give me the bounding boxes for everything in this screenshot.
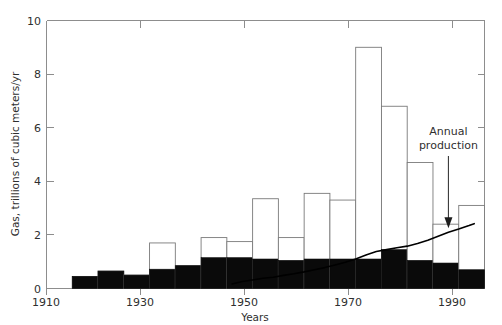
bar-cumulative-1990 [459, 270, 485, 289]
x-ticklabel-1910: 1910 [32, 296, 60, 309]
x-axis-title: Years [240, 311, 269, 323]
bar-cumulative-1930 [150, 269, 176, 288]
chart-figure: 10 8 6 4 2 0 Annual p [0, 0, 502, 325]
bar-cumulative-1915 [72, 276, 98, 288]
y-ticklabel-4: 4 [34, 175, 41, 188]
bar-total-1970 [356, 47, 382, 288]
x-ticklabel-1990: 1990 [438, 296, 466, 309]
bar-cumulative-1935 [175, 266, 201, 289]
bar-cumulative-1970 [356, 259, 382, 288]
bar-cumulative-1960 [304, 259, 330, 288]
bar-cumulative-1980 [407, 260, 433, 288]
bar-cumulative-1950 [253, 259, 279, 288]
y-ticklabel-10: 10 [27, 15, 41, 28]
bar-cumulative-1925 [124, 275, 150, 288]
x-ticklabel-1950: 1950 [230, 296, 258, 309]
bar-cumulative-1920 [98, 271, 124, 288]
gas-production-chart-svg: 10 8 6 4 2 0 Annual p [0, 0, 502, 325]
y-ticklabel-8: 8 [34, 68, 41, 81]
y-ticklabel-0: 0 [34, 283, 41, 296]
y-ticklabel-6: 6 [34, 122, 41, 135]
y-axis-title: Gas, trillions of cubic meters/yr [9, 71, 21, 236]
bar-cumulative-1940 [201, 258, 227, 289]
x-ticklabel-1970: 1970 [334, 296, 362, 309]
x-ticklabel-1930: 1930 [126, 296, 154, 309]
y-ticklabel-2: 2 [34, 229, 41, 242]
bar-cumulative-1975 [381, 250, 407, 289]
bar-cumulative-1985 [433, 263, 459, 288]
annotation-line2: production [419, 139, 478, 152]
annotation-line1: Annual [429, 125, 467, 138]
bar-cumulative-1945 [227, 258, 253, 289]
